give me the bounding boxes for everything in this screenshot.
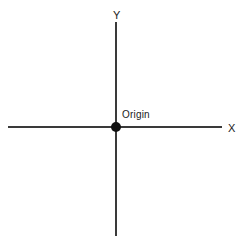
origin-point-marker	[111, 122, 121, 132]
y-axis-label: Y	[113, 9, 121, 21]
x-axis-label: X	[228, 122, 236, 134]
origin-label: Origin	[122, 109, 150, 120]
coordinate-axes-diagram: Y X Origin	[0, 0, 245, 242]
